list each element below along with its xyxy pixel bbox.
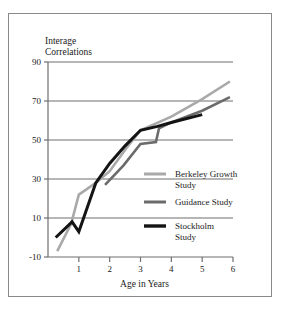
x-tick-label-6: 6	[231, 264, 236, 274]
y-tick-label-30: 30	[32, 174, 42, 184]
legend: Berkeley GrowthStudyGuidance StudyStockh…	[144, 169, 238, 242]
legend-label-2-line1: Guidance Study	[175, 197, 233, 207]
x-tick-label-1: 1	[77, 264, 82, 274]
x-tick-label-2: 2	[107, 264, 112, 274]
x-tick-label-5: 5	[200, 264, 205, 274]
legend-label-1-line1: Berkeley Growth	[175, 169, 238, 179]
x-tick-label-4: 4	[169, 264, 174, 274]
y-tick-label--10: -10	[29, 252, 41, 262]
y-tick-label-10: 10	[32, 213, 42, 223]
interage-correlations-line-chart: -101030507090123456InterageCorrelationsA…	[9, 14, 271, 296]
y-tick-label-70: 70	[32, 96, 42, 106]
figure-frame: -101030507090123456InterageCorrelationsA…	[8, 13, 272, 297]
y-tick-label-90: 90	[32, 57, 42, 67]
y-axis-ticks: -101030507090	[29, 57, 48, 262]
y-axis-label-line1: Interage	[45, 36, 76, 46]
y-tick-label-50: 50	[32, 135, 42, 145]
x-tick-label-3: 3	[138, 264, 143, 274]
x-axis-ticks: 123456	[77, 257, 236, 274]
legend-label-3-line1: Stockholm	[175, 221, 214, 231]
legend-label-1-line2: Study	[175, 180, 197, 190]
y-axis-label-line2: Correlations	[45, 47, 92, 57]
gridlines	[48, 62, 233, 218]
x-axis-label: Age in Years	[120, 279, 169, 289]
legend-label-3-line2: Study	[175, 232, 197, 242]
